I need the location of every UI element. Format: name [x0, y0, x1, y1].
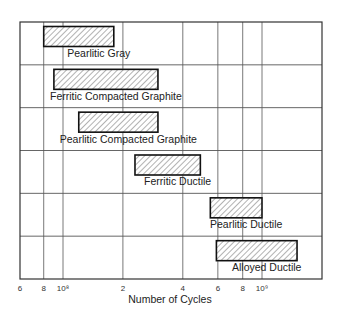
bar-label: Pearlitic Compacted Graphite — [60, 133, 197, 145]
bar-pearlitic-gray: Pearlitic Gray — [43, 26, 131, 59]
x-tick-label: 2 — [121, 284, 126, 293]
x-tick-label: 4 — [181, 284, 186, 293]
x-tick-label: 10⁹ — [256, 284, 268, 293]
x-tick-label: 6 — [216, 284, 221, 293]
x-tick-label: 8 — [41, 284, 46, 293]
bar-label: Pearlitic Gray — [67, 47, 131, 59]
bar-ferritic-compacted-graphite: Ferritic Compacted Graphite — [50, 69, 182, 102]
bar-label: Ferritic Compacted Graphite — [50, 90, 182, 102]
x-axis-ticks: 6810⁸246810⁹ — [18, 284, 268, 293]
bar-label: Ferritic Ductile — [144, 175, 211, 187]
bar-label: Pearlitic Ductile — [210, 218, 283, 230]
cycles-range-chart: Pearlitic GrayFerritic Compacted Graphit… — [0, 0, 339, 315]
bar-alloyed-ductile: Alloyed Ductile — [215, 240, 301, 273]
x-tick-label: 10⁸ — [57, 284, 69, 293]
x-tick-label: 6 — [18, 284, 23, 293]
x-tick-label: 8 — [240, 284, 245, 293]
bar-pearlitic-compacted-graphite: Pearlitic Compacted Graphite — [60, 112, 197, 145]
bar-label: Alloyed Ductile — [232, 261, 302, 273]
bar-ferritic-ductile: Ferritic Ductile — [134, 155, 211, 188]
bar-pearlitic-ductile: Pearlitic Ductile — [209, 197, 282, 230]
x-axis-title: Number of Cycles — [128, 293, 211, 305]
